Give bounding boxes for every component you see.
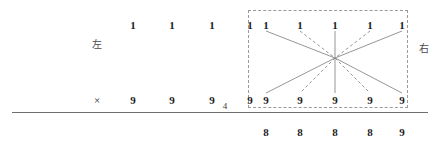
- left-multiplier-digit: 9: [205, 95, 219, 106]
- right-multiplier-digit: 9: [363, 95, 377, 106]
- right-multiplicand-digit: 1: [328, 20, 342, 31]
- right-multiplier-digit: 9: [328, 95, 342, 106]
- left-multiplicand-digit: 1: [205, 20, 219, 31]
- right-group-label: 右: [414, 44, 434, 54]
- left-group-label: 左: [87, 40, 107, 50]
- right-multiplier-digit: 9: [259, 95, 273, 106]
- right-multiplicand-digit: 1: [395, 20, 409, 31]
- right-multiplicand-digit: 1: [293, 20, 307, 31]
- left-multiplicand-digit: 1: [243, 20, 257, 31]
- left-multiplicand-digit: 1: [126, 20, 140, 31]
- result-digit: 8: [259, 127, 273, 138]
- right-multiplicand-digit: 1: [363, 20, 377, 31]
- carry-digit: 4: [218, 102, 232, 111]
- multiplication-line-figure: 左 右 × 4 11119999111119999988889: [0, 0, 444, 142]
- result-digit: 8: [328, 127, 342, 138]
- left-multiplicand-digit: 1: [165, 20, 179, 31]
- multiply-sign: ×: [90, 95, 104, 106]
- result-digit: 8: [363, 127, 377, 138]
- left-multiplier-digit: 9: [243, 95, 257, 106]
- right-multiplier-digit: 9: [293, 95, 307, 106]
- result-digit: 9: [395, 127, 409, 138]
- result-digit: 8: [293, 127, 307, 138]
- right-multiplicand-digit: 1: [259, 20, 273, 31]
- right-multiplier-digit: 9: [395, 95, 409, 106]
- left-multiplier-digit: 9: [126, 95, 140, 106]
- summation-rule: [12, 112, 428, 113]
- left-multiplier-digit: 9: [165, 95, 179, 106]
